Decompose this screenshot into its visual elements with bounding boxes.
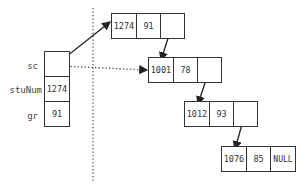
node2-next — [197, 57, 222, 83]
var-stuNum-cell: 1274 — [44, 76, 70, 102]
node1-stuNum: 1274 — [111, 13, 137, 39]
node2-stuNum: 1001 — [148, 57, 174, 83]
node1-next — [160, 13, 185, 39]
node3-grade: 93 — [209, 101, 234, 127]
var-label-gr: gr — [0, 111, 38, 121]
node3-next — [233, 101, 258, 127]
node4-grade: 85 — [246, 146, 271, 172]
var-sc-cell — [44, 51, 70, 77]
var-label-sc: sc — [0, 61, 38, 71]
var-gr-cell: 91 — [44, 101, 70, 127]
var-label-stuNum: stuNum — [0, 85, 42, 95]
node4-next: NULL — [270, 146, 296, 172]
node4-stuNum: 1076 — [221, 146, 247, 172]
node1-grade: 91 — [136, 13, 161, 39]
node2-grade: 78 — [173, 57, 198, 83]
node3-stuNum: 1012 — [184, 101, 210, 127]
arrow-sc-to-node2-dotted — [60, 66, 147, 70]
